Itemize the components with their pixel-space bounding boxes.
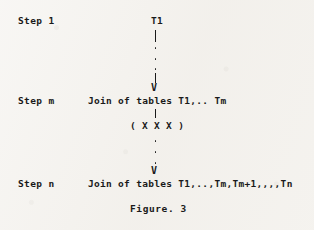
figure-canvas: Step 1 T1 V Step m Join of tables T1,.. … xyxy=(0,0,314,230)
connector-bottom-ellipsis-dot-2 xyxy=(155,151,157,153)
step-label-step-n: Step n xyxy=(18,178,55,190)
connector-bottom-ellipsis-dot-3 xyxy=(155,162,157,164)
node-text-step-n: Join of tables T1,..,Tm,Tm+1,,,,Tn xyxy=(88,178,293,190)
connector-top-ellipsis-dot-2 xyxy=(155,58,157,60)
figure-caption: Figure. 3 xyxy=(130,203,187,215)
step-label-step-m: Step m xyxy=(18,95,55,107)
connector-top-ellipsis-dot-1 xyxy=(155,47,157,49)
connector-top-ellipsis-dot-3 xyxy=(155,68,157,70)
connector-top-arrowhead-icon: V xyxy=(151,83,157,93)
connector-top-line-upper xyxy=(155,30,156,42)
annotation-join-operator: ( X X X ) xyxy=(130,120,184,132)
step-label-step-1: Step 1 xyxy=(18,15,55,27)
connector-bottom-ellipsis-dot-1 xyxy=(155,140,157,142)
node-text-step-1: T1 xyxy=(151,15,163,27)
connector-bottom-arrowhead-icon: V xyxy=(151,166,157,176)
connector-mid-line xyxy=(155,109,156,118)
node-text-step-m: Join of tables T1,.. Tm xyxy=(88,95,226,107)
